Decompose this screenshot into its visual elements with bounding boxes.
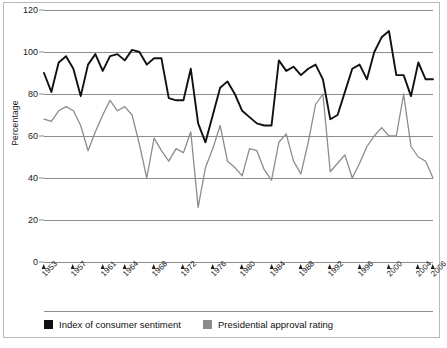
legend-swatch xyxy=(44,320,53,329)
x-tick-label: 1984 xyxy=(268,259,287,278)
y-tick-label: 80 xyxy=(28,89,38,99)
x-tick-label: 1961 xyxy=(99,259,118,278)
y-tick-label: 0 xyxy=(33,257,38,267)
y-tick-label: 20 xyxy=(28,215,38,225)
y-axis-label: Percentage xyxy=(10,78,20,168)
y-tick-label: 60 xyxy=(28,131,38,141)
footnote-text xyxy=(5,343,435,348)
legend-swatch xyxy=(203,320,212,329)
x-tick-label: 2000 xyxy=(385,259,404,278)
legend-item: Index of consumer sentiment xyxy=(44,319,181,330)
y-tick-label: 120 xyxy=(23,5,38,15)
x-tick-label: 1980 xyxy=(238,259,257,278)
x-axis: 1953195719611964196819721976198019841988… xyxy=(44,262,433,308)
x-tick-label: 1964 xyxy=(121,259,140,278)
chart-figure: Percentage 020406080100120 1953195719611… xyxy=(0,0,447,348)
x-tick-label: 1988 xyxy=(297,259,316,278)
x-tick-label: 2006 xyxy=(429,259,447,278)
x-tick-label: 1992 xyxy=(326,259,345,278)
legend-label: Index of consumer sentiment xyxy=(59,319,181,330)
y-tick-label: 100 xyxy=(23,47,38,57)
x-tick-label: 1968 xyxy=(150,259,169,278)
legend-item: Presidential approval rating xyxy=(203,319,333,330)
chart-legend: Index of consumer sentimentPresidential … xyxy=(44,319,355,330)
x-tick-label: 1996 xyxy=(356,259,375,278)
x-tick-label: 1957 xyxy=(69,259,88,278)
x-tick-label: 1972 xyxy=(179,259,198,278)
legend-divider xyxy=(44,311,433,312)
legend-label: Presidential approval rating xyxy=(218,319,333,330)
y-tick-label: 40 xyxy=(28,173,38,183)
series-line xyxy=(44,31,433,142)
series-line xyxy=(44,94,433,207)
plot-area: 020406080100120 xyxy=(44,10,433,262)
x-tick-label: 1976 xyxy=(209,259,228,278)
series-lines xyxy=(44,10,433,262)
